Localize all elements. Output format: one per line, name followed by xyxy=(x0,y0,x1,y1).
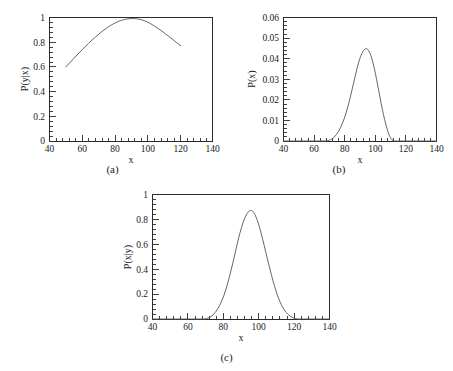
x-tick-labels-b: 40 60 80 100 120 140 xyxy=(279,144,444,154)
y-tick-labels-b: 0 0.01 0.02 0.03 0.04 0.05 0.06 xyxy=(262,13,279,147)
y-tick-label: 0.6 xyxy=(33,62,45,72)
panel-caption-c: (c) xyxy=(112,352,341,363)
y-tick-label: 0.2 xyxy=(136,289,148,299)
x-tick-label: 80 xyxy=(110,144,120,154)
y-axis-ticks-c xyxy=(153,195,159,320)
figure-container: 40 60 80 100 120 140 0 0.2 0.4 0.6 0.8 1… xyxy=(0,0,453,371)
y-tick-label: 0 xyxy=(274,136,279,146)
y-tick-label: 0.02 xyxy=(262,95,279,105)
panel-caption-b: (b) xyxy=(225,164,453,175)
data-curve-b xyxy=(284,49,437,141)
y-tick-label: 1 xyxy=(40,13,45,23)
x-tick-label: 120 xyxy=(399,144,414,154)
x-tick-label: 140 xyxy=(322,322,337,332)
y-tick-label: 0.05 xyxy=(262,33,279,43)
x-axis-ticks-a xyxy=(50,135,213,141)
x-tick-label: 100 xyxy=(141,144,156,154)
x-tick-label: 80 xyxy=(340,144,350,154)
chart-panel-c: 40 60 80 100 120 140 0 0.2 0.4 0.6 0.8 1… xyxy=(112,182,341,371)
y-tick-label: 0.03 xyxy=(262,75,279,85)
x-axis-title-c: x xyxy=(239,332,244,343)
y-axis-ticks-b xyxy=(284,18,290,142)
chart-svg-c: 40 60 80 100 120 140 0 0.2 0.4 0.6 0.8 1… xyxy=(112,182,341,352)
y-axis-title-a: P(y|x) xyxy=(19,67,31,91)
plot-frame-a xyxy=(50,18,213,142)
plot-frame-c xyxy=(153,195,330,320)
x-tick-label: 100 xyxy=(252,322,267,332)
x-tick-label: 40 xyxy=(148,322,158,332)
x-tick-label: 120 xyxy=(174,144,189,154)
y-tick-label: 0.2 xyxy=(33,112,45,122)
x-tick-label: 40 xyxy=(279,144,289,154)
chart-panel-a: 40 60 80 100 120 140 0 0.2 0.4 0.6 0.8 1… xyxy=(0,0,225,182)
y-tick-label: 0 xyxy=(40,136,45,146)
chart-panel-b: 40 60 80 100 120 140 0 0.01 0.02 0.03 0.… xyxy=(225,0,453,182)
x-tick-labels-c: 40 60 80 100 120 140 xyxy=(148,322,337,332)
x-tick-label: 40 xyxy=(45,144,55,154)
plot-frame-b xyxy=(284,18,437,142)
y-tick-label: 0.01 xyxy=(262,116,279,126)
y-tick-label: 0.8 xyxy=(33,38,45,48)
x-tick-label: 140 xyxy=(205,144,220,154)
y-axis-title-b: P(x) xyxy=(246,70,258,87)
chart-svg-b: 40 60 80 100 120 140 0 0.01 0.02 0.03 0.… xyxy=(225,0,453,165)
chart-svg-a: 40 60 80 100 120 140 0 0.2 0.4 0.6 0.8 1… xyxy=(0,0,225,165)
x-tick-labels-a: 40 60 80 100 120 140 xyxy=(45,144,220,154)
y-tick-label: 0.06 xyxy=(262,13,279,23)
x-tick-label: 60 xyxy=(183,322,193,332)
data-curve-c xyxy=(153,210,330,319)
y-tick-label: 0.4 xyxy=(136,265,148,275)
x-tick-label: 80 xyxy=(219,322,229,332)
x-tick-label: 60 xyxy=(78,144,88,154)
y-axis-ticks-a xyxy=(50,18,56,142)
x-tick-label: 140 xyxy=(429,144,444,154)
panel-caption-a: (a) xyxy=(0,164,225,175)
y-tick-label: 0.6 xyxy=(136,240,148,250)
y-axis-title-c: P(x|y) xyxy=(122,245,134,269)
x-tick-label: 100 xyxy=(368,144,383,154)
y-tick-label: 0.8 xyxy=(136,215,148,225)
x-tick-label: 60 xyxy=(309,144,319,154)
x-tick-label: 120 xyxy=(287,322,302,332)
y-tick-labels-a: 0 0.2 0.4 0.6 0.8 1 xyxy=(33,13,45,147)
y-tick-label: 0.04 xyxy=(262,54,279,64)
y-tick-label: 0.4 xyxy=(33,87,45,97)
y-tick-labels-c: 0 0.2 0.4 0.6 0.8 1 xyxy=(136,190,148,324)
data-curve-a xyxy=(66,19,181,67)
x-axis-ticks-c xyxy=(153,313,330,319)
y-tick-label: 1 xyxy=(143,190,148,200)
y-tick-label: 0 xyxy=(143,314,148,324)
x-axis-ticks-b xyxy=(284,135,437,141)
